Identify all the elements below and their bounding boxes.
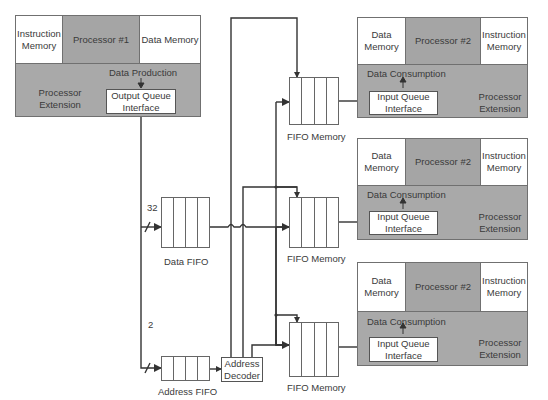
internal-arrows: [0, 0, 548, 400]
